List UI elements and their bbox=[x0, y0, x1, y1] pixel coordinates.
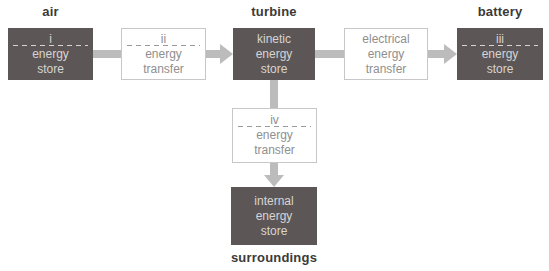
label-battery: battery bbox=[457, 4, 543, 19]
connector-air-to-transfer-ii bbox=[93, 50, 121, 58]
arrowhead-down-icon bbox=[264, 175, 284, 187]
box-text: store bbox=[11, 62, 90, 77]
numeral-ii: ii bbox=[161, 32, 166, 46]
box-air-energy-store: i energy store bbox=[8, 28, 93, 80]
box-electrical-energy-transfer: electrical energy transfer bbox=[344, 28, 428, 80]
blank-line-iv: iv bbox=[236, 113, 313, 128]
box-kinetic-energy-store: kinetic energy store bbox=[233, 28, 315, 80]
box-energy-transfer-ii: ii energy transfer bbox=[121, 28, 206, 80]
label-turbine: turbine bbox=[233, 4, 315, 19]
blank-line-ii: ii bbox=[125, 32, 202, 47]
box-text: transfer bbox=[125, 62, 202, 77]
box-text: transfer bbox=[236, 143, 313, 158]
numeral-iii: iii bbox=[496, 32, 504, 46]
blank-line-i: i bbox=[11, 32, 90, 47]
energy-transfer-diagram: air turbine battery i energy store ii en… bbox=[0, 0, 549, 271]
box-text: internal bbox=[234, 194, 314, 209]
arrowhead-right-icon bbox=[444, 44, 457, 64]
connector-turbine-to-electrical-transfer bbox=[315, 50, 344, 58]
box-text: store bbox=[234, 224, 314, 239]
box-text: energy bbox=[236, 128, 313, 143]
label-air: air bbox=[8, 4, 93, 19]
box-battery-energy-store: iii energy store bbox=[457, 28, 543, 80]
box-text: energy bbox=[125, 47, 202, 62]
box-text: store bbox=[460, 62, 540, 77]
box-internal-energy-store: internal energy store bbox=[231, 187, 317, 245]
arrow-shaft-electrical-to-battery bbox=[428, 50, 444, 58]
box-text: energy bbox=[234, 209, 314, 224]
connector-turbine-to-transfer-iv bbox=[270, 80, 278, 108]
arrowhead-right-icon bbox=[220, 44, 233, 64]
box-text: energy bbox=[11, 47, 90, 62]
arrow-shaft-transfer-ii-to-turbine bbox=[206, 50, 221, 58]
label-surroundings: surroundings bbox=[216, 250, 332, 265]
box-text: transfer bbox=[348, 62, 424, 77]
numeral-iv: iv bbox=[270, 113, 279, 127]
blank-line-iii: iii bbox=[460, 32, 540, 47]
box-text: energy bbox=[348, 47, 424, 62]
box-energy-transfer-iv: iv energy transfer bbox=[232, 108, 317, 163]
box-text: electrical bbox=[348, 32, 424, 47]
box-text: energy bbox=[460, 47, 540, 62]
box-text: energy bbox=[236, 47, 312, 62]
box-text: kinetic bbox=[236, 32, 312, 47]
numeral-i: i bbox=[49, 32, 52, 46]
box-text: store bbox=[236, 62, 312, 77]
